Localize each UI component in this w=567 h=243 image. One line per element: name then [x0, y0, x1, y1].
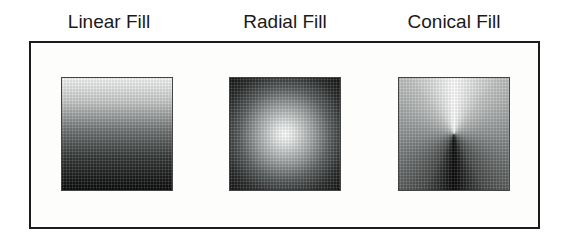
radial-fill-label: Radial Fill [205, 10, 365, 34]
linear-fill-label: Linear Fill [29, 10, 189, 34]
radial-fill-swatch [229, 77, 341, 191]
conical-fill-swatch [398, 77, 510, 191]
conical-fill-label: Conical Fill [374, 10, 534, 34]
linear-fill-swatch [61, 77, 173, 191]
